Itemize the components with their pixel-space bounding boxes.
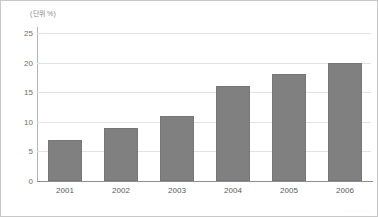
bar-slot	[149, 33, 205, 181]
bar-2001[interactable]	[48, 140, 82, 181]
y-axis-ticks: 25 20 15 10 5 0	[1, 33, 33, 181]
bar-slot	[261, 33, 317, 181]
x-axis-label-2004: 2004	[205, 186, 261, 195]
bar-slot	[93, 33, 149, 181]
x-axis-label-2001: 2001	[37, 186, 93, 195]
bar-2002[interactable]	[104, 128, 138, 181]
x-axis-label-2003: 2003	[149, 186, 205, 195]
x-axis-label-2006: 2006	[317, 186, 373, 195]
y-axis-tick-label: 5	[7, 147, 33, 156]
bar-slot	[205, 33, 261, 181]
watermark: ···········	[345, 208, 371, 214]
y-axis-tick-label: 15	[7, 88, 33, 97]
x-axis-label-2005: 2005	[261, 186, 317, 195]
bar-slot	[37, 33, 93, 181]
unit-label: (단위 %)	[30, 8, 56, 18]
bar-2006[interactable]	[328, 63, 362, 181]
x-axis-label-2002: 2002	[93, 186, 149, 195]
chart-screenshot: (단위 %) 25 20 15 10 5 0	[0, 0, 378, 217]
bar-series	[37, 33, 373, 181]
x-axis-line	[37, 181, 373, 182]
bar-slot	[317, 33, 373, 181]
y-axis-tick-label: 25	[7, 29, 33, 38]
y-axis-tick-label: 10	[7, 117, 33, 126]
bar-2003[interactable]	[160, 116, 194, 181]
y-axis-tick-label: 20	[7, 58, 33, 67]
x-axis-labels: 2001 2002 2003 2004 2005 2006	[37, 186, 373, 195]
bar-2004[interactable]	[216, 86, 250, 181]
y-axis-tick-label: 0	[7, 177, 33, 186]
bar-2005[interactable]	[272, 74, 306, 181]
